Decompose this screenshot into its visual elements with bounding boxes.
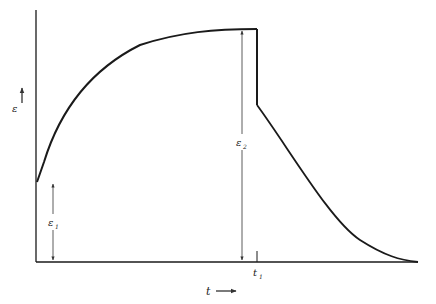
recovery-curve — [257, 105, 418, 262]
creep-curve — [37, 29, 257, 182]
eps2-sub: 2 — [242, 143, 247, 150]
eps1-sub: 1 — [55, 223, 59, 230]
eps2-label: ε — [236, 137, 241, 148]
x-axis-label: t — [206, 285, 211, 298]
t1-sub: 1 — [259, 273, 263, 280]
eps1-label: ε — [48, 217, 53, 228]
creep-recovery-diagram: ε t ε 1 ε 2 t 1 — [0, 0, 436, 304]
t1-label: t — [253, 267, 258, 278]
y-axis-label: ε — [12, 103, 17, 114]
